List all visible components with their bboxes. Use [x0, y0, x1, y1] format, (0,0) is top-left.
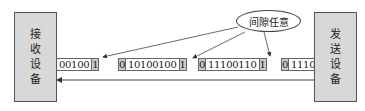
stop-bit: 1 [179, 58, 187, 71]
sender-label-3: 设 [330, 57, 341, 72]
sender-label-4: 备 [330, 72, 341, 87]
receiver-label-4: 备 [30, 72, 41, 87]
sender-label-1: 发 [330, 27, 341, 42]
frame-1: 00100 1 [57, 58, 99, 71]
frame-data: 1110 [289, 58, 314, 71]
gap-callout: 间隙任意 [236, 10, 301, 32]
start-bit: 0 [281, 58, 289, 71]
gap-callout-text: 间隙任意 [249, 14, 289, 29]
receiver-label-3: 设 [30, 57, 41, 72]
receiver-device: 接 收 设 备 [14, 12, 57, 102]
receiver-label-2: 收 [30, 42, 41, 57]
frame-4: 0 1110 [281, 58, 314, 71]
frame-3: 0 11100110 1 [198, 58, 267, 71]
sender-label-2: 送 [330, 42, 341, 57]
sender-device: 发 送 设 备 [314, 12, 357, 102]
gap-arrow-3 [264, 32, 270, 56]
stop-bit: 1 [259, 58, 267, 71]
frame-2: 0 10100100 1 [118, 58, 187, 71]
start-bit: 0 [198, 58, 206, 71]
receiver-label-1: 接 [30, 27, 41, 42]
frame-data: 10100100 [126, 58, 179, 71]
gap-arrow-2 [193, 32, 245, 58]
frame-data: 11100110 [206, 58, 259, 71]
stop-bit: 1 [91, 58, 99, 71]
frame-data: 00100 [57, 58, 91, 71]
gap-arrow-1 [103, 27, 238, 57]
start-bit: 0 [118, 58, 126, 71]
